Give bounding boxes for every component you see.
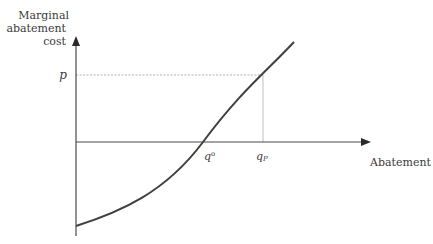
- mac-curve: [76, 42, 294, 226]
- y-axis-arrow-icon: [72, 36, 80, 46]
- q-zero-label: qo: [204, 150, 215, 163]
- y-axis-label-line2: abatement: [6, 22, 66, 35]
- y-axis-label-line1: Marginal: [18, 9, 69, 22]
- price-label: p: [59, 68, 67, 82]
- x-axis-arrow-icon: [361, 138, 371, 146]
- y-axis-label-line3: cost: [43, 35, 66, 48]
- q-p-label: qP: [256, 150, 268, 163]
- mac-diagram: Marginal abatement cost p qo qP Abatemen…: [0, 0, 433, 244]
- x-axis-label: Abatement: [369, 156, 431, 169]
